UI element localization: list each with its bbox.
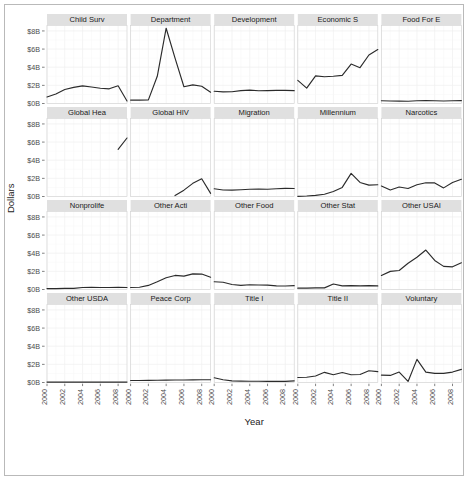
- facet-strip-label: Other USAI: [402, 201, 441, 210]
- facet-strip-label: Economic S: [318, 15, 359, 24]
- panel-background: [298, 305, 378, 383]
- panel-background: [214, 212, 294, 290]
- faceted-line-chart: $0B$2B$4B$6B$8B$0B$2B$4B$6B$8B$0B$2B$4B$…: [0, 0, 469, 481]
- x-tick-label: 2008: [362, 389, 371, 405]
- facet-strip-label: Other Food: [235, 201, 273, 210]
- y-tick-label: $2B: [27, 360, 40, 369]
- facet-panel: Other Acti: [131, 200, 211, 290]
- facet-strip-label: Nonprolife: [70, 201, 105, 210]
- panel-background: [381, 305, 461, 383]
- facet-panel: Economic S: [298, 14, 378, 104]
- y-tick-label: $8B: [27, 27, 40, 36]
- y-tick-label: $2B: [27, 174, 40, 183]
- facet-strip-label: Voluntary: [406, 294, 438, 303]
- facet-strip-label: Global Hea: [68, 108, 107, 117]
- facet-panel: Global HIV: [131, 107, 211, 197]
- facet-panel: Other USAI: [381, 200, 461, 290]
- panel-background: [381, 212, 461, 290]
- x-tick-label: 2004: [410, 389, 419, 405]
- x-tick-label: 2004: [243, 389, 252, 405]
- panel-background: [131, 119, 211, 197]
- y-tick-label: $4B: [27, 342, 40, 351]
- facet-panel: Global Hea: [47, 107, 127, 197]
- facet-strip-label: Child Surv: [69, 15, 104, 24]
- x-tick-label: 2006: [261, 389, 270, 405]
- facet-strip-label: Other Acti: [154, 201, 188, 210]
- y-tick-label: $0B: [27, 378, 40, 387]
- facet-panel: Development: [214, 14, 294, 104]
- x-tick-label: 2002: [225, 389, 234, 405]
- facet-panel: Title I20002002200420062008: [207, 293, 294, 405]
- series-line: [381, 101, 461, 102]
- y-tick-label: $8B: [27, 306, 40, 315]
- facet-panel: Nonprolife: [47, 200, 127, 290]
- facet-panel: Millennium: [298, 107, 378, 197]
- facet-strip-label: Other USDA: [66, 294, 109, 303]
- x-tick-label: 2000: [207, 389, 216, 405]
- x-tick-label: 2002: [309, 389, 318, 405]
- y-tick-label: $2B: [27, 267, 40, 276]
- facet-strip-label: Food For E: [402, 15, 440, 24]
- y-axis-title: Dollars: [5, 183, 16, 213]
- y-tick-label: $2B: [27, 81, 40, 90]
- facet-strip-label: Development: [232, 15, 278, 24]
- y-tick-label: $8B: [27, 120, 40, 129]
- facet-panel: Migration: [214, 107, 294, 197]
- panel-background: [47, 212, 127, 290]
- x-tick-label: 2006: [344, 389, 353, 405]
- facet-panel: Food For E: [381, 14, 461, 104]
- y-tick-label: $6B: [27, 45, 40, 54]
- x-tick-label: 2004: [159, 389, 168, 405]
- facet-panel: Other Stat: [298, 200, 378, 290]
- facet-panel: Narcotics: [381, 107, 461, 197]
- y-tick-label: $6B: [27, 324, 40, 333]
- chart-screenshot: $0B$2B$4B$6B$8B$0B$2B$4B$6B$8B$0B$2B$4B$…: [0, 0, 469, 481]
- facet-strip-label: Title II: [328, 294, 348, 303]
- facet-panel: Child Surv: [47, 14, 127, 104]
- panel-background: [47, 119, 127, 197]
- facet-panel: Title II20002002200420062008: [291, 293, 378, 405]
- facet-panel: Other USDA20002002200420062008: [40, 293, 127, 405]
- x-tick-label: 2002: [392, 389, 401, 405]
- x-tick-label: 2006: [93, 389, 102, 405]
- panel-background: [131, 305, 211, 383]
- facet-strip-label: Other Stat: [320, 201, 355, 210]
- facet-strip-label: Narcotics: [406, 108, 438, 117]
- panel-background: [298, 26, 378, 104]
- x-tick-label: 2006: [177, 389, 186, 405]
- x-tick-label: 2008: [195, 389, 204, 405]
- panel-background: [214, 119, 294, 197]
- x-tick-label: 2008: [446, 389, 455, 405]
- facet-panel: Voluntary20002002200420062008: [374, 293, 461, 405]
- x-tick-label: 2004: [76, 389, 85, 405]
- y-tick-label: $6B: [27, 231, 40, 240]
- x-tick-label: 2002: [141, 389, 150, 405]
- y-tick-label: $0B: [27, 192, 40, 201]
- panel-background: [131, 26, 211, 104]
- facet-strip-label: Department: [151, 15, 192, 24]
- x-axis-title: Year: [245, 416, 264, 427]
- facet-panel: Department: [131, 14, 211, 104]
- facet-strip-label: Millennium: [320, 108, 356, 117]
- x-tick-label: 2000: [374, 389, 383, 405]
- x-tick-label: 2000: [40, 389, 49, 405]
- x-tick-label: 2000: [124, 389, 133, 405]
- y-tick-label: $4B: [27, 249, 40, 258]
- facet-panel: Other Food: [214, 200, 294, 290]
- y-tick-label: $8B: [27, 213, 40, 222]
- facet-panel: Peace Corp20002002200420062008: [124, 293, 211, 405]
- x-tick-label: 2006: [428, 389, 437, 405]
- x-tick-label: 2008: [111, 389, 120, 405]
- panel-background: [298, 212, 378, 290]
- panel-background: [381, 26, 461, 104]
- x-tick-label: 2008: [278, 389, 287, 405]
- y-tick-label: $0B: [27, 99, 40, 108]
- y-tick-label: $0B: [27, 285, 40, 294]
- y-tick-label: $6B: [27, 138, 40, 147]
- facet-strip-label: Global HIV: [152, 108, 190, 117]
- x-tick-label: 2004: [326, 389, 335, 405]
- facet-strip-label: Peace Corp: [151, 294, 191, 303]
- panel-background: [214, 305, 294, 383]
- y-tick-label: $4B: [27, 63, 40, 72]
- panel-background: [47, 305, 127, 383]
